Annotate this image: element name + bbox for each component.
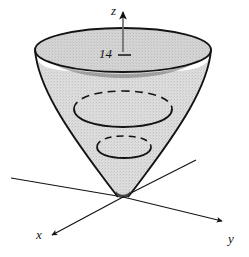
x-axis-label: x bbox=[36, 228, 42, 241]
funnel-surface bbox=[35, 28, 211, 198]
positive-x-axis bbox=[52, 197, 123, 235]
surface-diagram-svg bbox=[0, 0, 249, 257]
z-axis-label: z bbox=[111, 4, 116, 17]
positive-y-axis bbox=[123, 197, 222, 221]
figure-canvas: z y x 14 bbox=[0, 0, 249, 257]
y-axis-label: y bbox=[228, 232, 234, 245]
z-tick-label-14: 14 bbox=[99, 47, 112, 60]
